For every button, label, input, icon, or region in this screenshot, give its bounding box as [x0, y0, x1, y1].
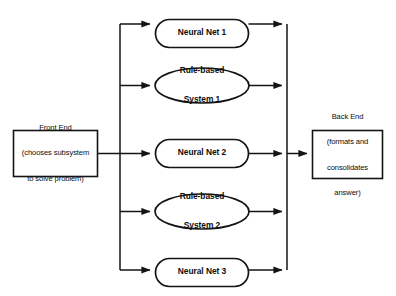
diagram-canvas: Front End (chooses subsystem to solve pr…	[0, 0, 396, 296]
rule-based-system-1-shape	[155, 68, 249, 103]
neural-net-3-shape	[156, 259, 249, 287]
back-end-box	[313, 131, 383, 179]
neural-net-1-shape	[156, 20, 249, 48]
diagram-graphics	[0, 0, 396, 296]
neural-net-2-shape	[156, 140, 249, 168]
front-end-box	[14, 131, 98, 177]
rule-based-system-2-shape	[155, 194, 249, 229]
